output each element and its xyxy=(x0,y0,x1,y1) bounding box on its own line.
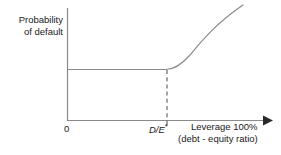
y-axis-label: Probability of default xyxy=(0,14,63,37)
x-axis-sublabel: (debt - equity ratio) xyxy=(178,133,258,145)
threshold-label-star: * xyxy=(165,122,168,131)
x-axis-arrowhead-icon xyxy=(263,116,273,126)
y-axis-label-line2: of default xyxy=(0,26,63,38)
y-axis-label-line1: Probability xyxy=(0,14,63,26)
threshold-label-base: D/E xyxy=(149,124,165,135)
origin-tick-label: 0 xyxy=(64,123,69,135)
threshold-tick-label: D/E* xyxy=(149,121,168,136)
probability-of-default-chart: Probability of default 0 D/E* Leverage 1… xyxy=(0,0,281,155)
x-axis-label: Leverage 100% xyxy=(191,121,258,133)
default-probability-curve xyxy=(68,5,244,70)
